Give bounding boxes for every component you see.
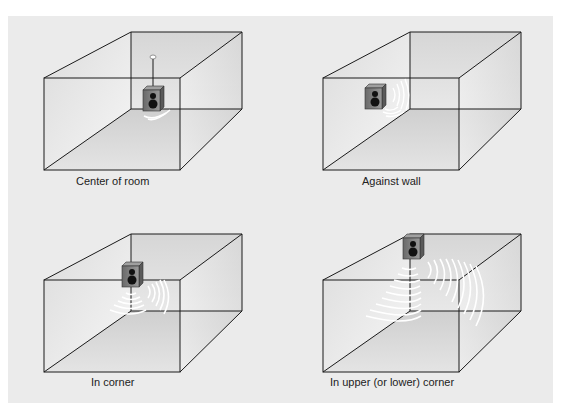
speaker-icon bbox=[403, 234, 424, 259]
panel-in-corner bbox=[44, 234, 242, 372]
speaker-icon bbox=[365, 84, 386, 109]
panel-upper-corner bbox=[323, 234, 521, 372]
panel-center-of-room bbox=[44, 32, 242, 170]
caption-against-wall: Against wall bbox=[362, 175, 421, 187]
speaker-icon bbox=[122, 262, 143, 287]
panel-against-wall bbox=[323, 32, 521, 170]
speaker-placement-diagram bbox=[0, 0, 561, 413]
caption-center-of-room: Center of room bbox=[76, 175, 149, 187]
caption-upper-corner: In upper (or lower) corner bbox=[330, 376, 454, 388]
caption-in-corner: In corner bbox=[91, 376, 134, 388]
